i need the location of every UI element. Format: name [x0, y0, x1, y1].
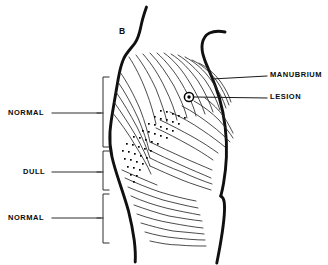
rib-arc [128, 187, 198, 208]
rib-arc [122, 170, 157, 185]
stipple-dot [134, 153, 136, 155]
stipple-dot [178, 115, 180, 117]
stipple-dot [157, 143, 159, 145]
stipple-dot [148, 123, 150, 125]
lesion-center-dot [187, 95, 190, 98]
stipple-dot [126, 143, 128, 145]
thorax-percussion-illustration [0, 0, 328, 265]
stipple-dot [130, 159, 132, 161]
stipple-dot [140, 155, 142, 157]
stipple-dot [172, 113, 174, 115]
stipple-dot [142, 130, 144, 132]
stipple-dot [138, 146, 140, 148]
rib-arc [205, 98, 233, 133]
stipple-dot [166, 128, 168, 130]
stipple-dot [166, 119, 168, 121]
rib-arc [120, 72, 150, 142]
leader-manubrium [212, 76, 267, 79]
stipple-dot [144, 148, 146, 150]
label-normal-upper: NORMAL [8, 109, 44, 117]
stipple-dot [128, 151, 130, 153]
rib-arc [118, 82, 149, 150]
left-bracket-group [52, 77, 109, 243]
bracket-normal-upper [103, 77, 109, 147]
stipple-dot [122, 150, 124, 152]
rib-arc [192, 60, 229, 105]
rib-arc [150, 166, 211, 190]
rib-arc [129, 57, 156, 124]
label-normal-lower: NORMAL [8, 214, 44, 222]
rib-arc [150, 158, 212, 184]
rib-arc [141, 223, 204, 234]
stipple-dot [154, 116, 156, 118]
rib-arc [149, 150, 211, 178]
stipple-dot [130, 174, 132, 176]
stipple-dot [139, 137, 141, 139]
stipple-dot [142, 163, 144, 165]
stipple-dot [154, 124, 156, 126]
stipple-dot [133, 136, 135, 138]
label-manubrium: MANUBRIUM [270, 71, 322, 79]
stipple-dot [145, 139, 147, 141]
stipple-dot [150, 150, 152, 152]
stipple-dot [178, 123, 180, 125]
stipple-dot [160, 110, 162, 112]
lesion-marker [184, 92, 193, 101]
stipple-dot [127, 166, 129, 168]
stipple-dot [172, 121, 174, 123]
stipple-dot [172, 130, 174, 132]
bracket-dull [103, 151, 109, 190]
rib-arc [164, 53, 205, 114]
rib-arc [131, 196, 200, 215]
stipple-dot [124, 158, 126, 160]
anterior-body-contour [202, 31, 227, 196]
rib-arc [150, 241, 206, 246]
bracket-normal-lower [103, 194, 109, 243]
stipple-dot [160, 126, 162, 128]
stipple-dot [136, 161, 138, 163]
stipple-dot [136, 175, 138, 177]
stipple-dot [151, 141, 153, 143]
stipple-dot [184, 117, 186, 119]
stipple-dot [166, 137, 168, 139]
rib-arc [150, 142, 212, 170]
panel-label-b: B [119, 27, 125, 36]
stipple-dot [133, 181, 135, 183]
stipple-dot [133, 167, 135, 169]
dullness-stipple-group [122, 110, 186, 183]
stipple-dot [154, 133, 156, 135]
rib-arc [112, 112, 151, 174]
stipple-dot [160, 135, 162, 137]
stipple-dot [139, 169, 141, 171]
label-dull: DULL [23, 168, 45, 176]
rib-arc [160, 120, 218, 153]
stipple-dot [146, 157, 148, 159]
stipple-dot [148, 131, 150, 133]
stipple-dot [160, 118, 162, 120]
stipple-dot [166, 111, 168, 113]
label-lesion: LESION [270, 93, 301, 101]
rib-arc [150, 53, 187, 118]
stipple-dot [132, 144, 134, 146]
figure-panel-b: B NORMAL DULL NORMAL MANUBRIUM LESION [0, 0, 328, 265]
anterior-contour-notch [217, 196, 225, 263]
